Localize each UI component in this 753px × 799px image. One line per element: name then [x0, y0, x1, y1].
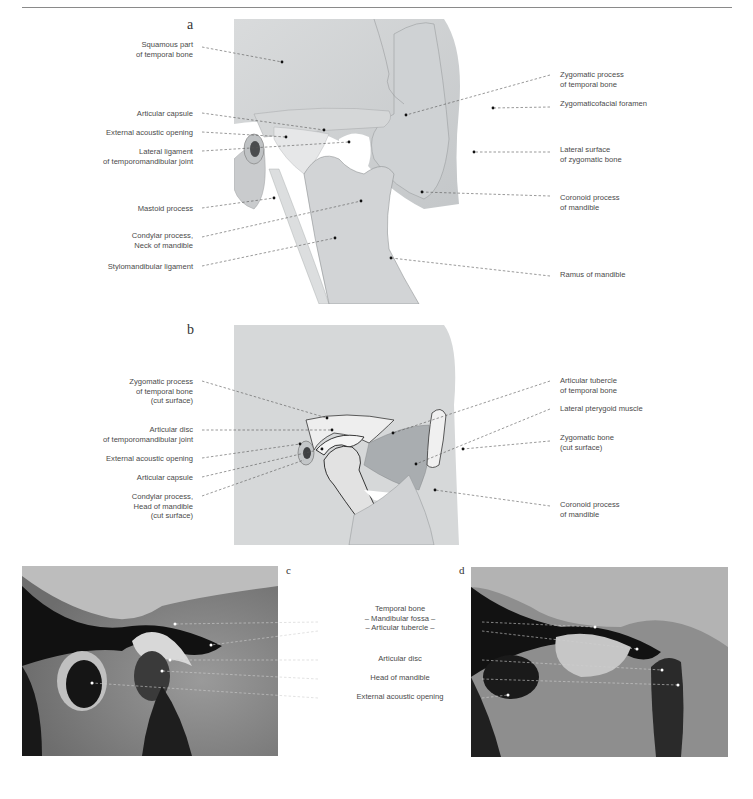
label-lateral-surface-zygomatic: Lateral surfaceof zygomatic bone: [560, 145, 622, 164]
label-condylar-neck: Condylar process,Neck of mandible: [132, 231, 193, 250]
label-lateral-ligament: Lateral ligamentof temporomandibular joi…: [103, 147, 193, 166]
label-external-acoustic-opening-b: External acoustic opening: [106, 454, 193, 464]
label-mastoid-process: Mastoid process: [138, 204, 193, 214]
label-articular-capsule-b: Articular capsule: [137, 473, 193, 483]
label-articular-disc-mri: Articular disc: [325, 654, 475, 664]
label-zygomatic-process-a: Zygomatic processof temporal bone: [560, 70, 624, 89]
top-rule: [22, 7, 732, 8]
label-ramus-of-mandible: Ramus of mandible: [560, 270, 625, 280]
label-zygomaticofacial-foramen: Zygomaticofacial foramen: [560, 99, 647, 109]
tmj-section-illustration: [234, 325, 464, 545]
label-external-acoustic-opening-mri: External acoustic opening: [325, 692, 475, 702]
label-lateral-pterygoid: Lateral pterygoid muscle: [560, 404, 643, 414]
label-condylar-head-cut: Condylar process,Head of mandible(cut su…: [132, 492, 193, 521]
label-temporal-bone-group: Temporal bone– Mandibular fossa –– Artic…: [325, 604, 475, 633]
label-external-acoustic-opening-a: External acoustic opening: [106, 128, 193, 138]
label-coronoid-process-b: Coronoid processof mandible: [560, 500, 620, 519]
mri-image-c: [22, 566, 278, 756]
mri-image-d: [471, 567, 728, 757]
panel-letter-b: b: [187, 322, 194, 338]
label-articular-capsule-a: Articular capsule: [137, 109, 193, 119]
panel-letter-a: a: [187, 17, 193, 33]
panel-letter-c: c: [286, 564, 291, 576]
label-stylomandibular-ligament: Stylomandibular ligament: [108, 262, 193, 272]
label-zygomatic-process-cut: Zygomatic processof temporal bone(cut su…: [129, 377, 193, 406]
panel-letter-d: d: [459, 564, 465, 576]
label-zygomatic-bone-cut: Zygomatic bone(cut surface): [560, 433, 614, 452]
label-articular-tubercle: Articular tubercleof temporal bone: [560, 376, 617, 395]
label-squamous-part: Squamous partof temporal bone: [136, 40, 193, 59]
label-head-of-mandible-mri: Head of mandible: [325, 673, 475, 683]
label-articular-disc-b: Articular discof temporomandibular joint: [103, 425, 193, 444]
label-coronoid-process-a: Coronoid processof mandible: [560, 193, 620, 212]
skull-lateral-illustration: [234, 19, 464, 304]
